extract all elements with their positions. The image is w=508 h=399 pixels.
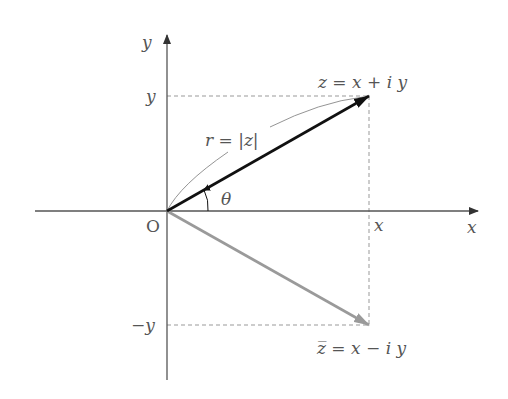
conjugate-vector — [167, 211, 369, 325]
z-conjugate-label: z̅ = x − i y — [316, 338, 406, 358]
z-label: z = x + i y — [317, 72, 407, 92]
modulus-label: r = |z| — [205, 130, 259, 150]
theta-arc — [204, 190, 208, 211]
modulus-arc-upper — [270, 97, 363, 127]
x-tick-label: x — [374, 215, 384, 235]
y-tick-label: y — [145, 86, 156, 106]
x-axis-label: x — [467, 217, 477, 237]
neg-y-tick-label: −y — [131, 315, 155, 335]
origin-label: O — [146, 216, 160, 236]
complex-plane-diagram: y x O y x −y z = x + i y z̅ = x − i y r … — [0, 0, 508, 399]
theta-label: θ — [221, 189, 231, 209]
y-axis-label: y — [141, 32, 152, 52]
z-vector — [167, 96, 369, 211]
